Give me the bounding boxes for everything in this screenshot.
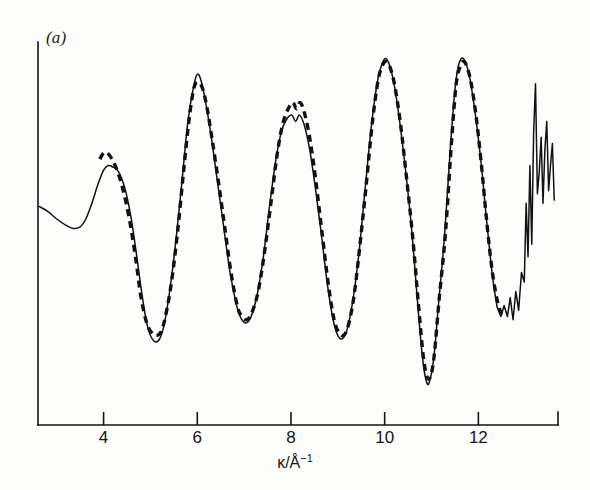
x-axis-title-exponent: −1 — [300, 452, 313, 464]
x-axis-ticks — [104, 412, 479, 425]
plot-canvas — [0, 0, 590, 490]
x-tick-label: 10 — [375, 428, 394, 448]
calculated-curve-dashed — [100, 61, 504, 379]
x-tick-label: 8 — [286, 428, 295, 448]
exafs-figure: (a) 4681012 κ/Å−1 — [0, 0, 590, 490]
x-tick-label: 4 — [99, 428, 108, 448]
x-axis-title-symbol: κ — [277, 454, 285, 471]
data-curves — [39, 58, 554, 385]
x-axis-title-unit: /Å — [285, 454, 300, 471]
x-tick-label: 12 — [469, 428, 488, 448]
x-axis-title: κ/Å−1 — [277, 452, 313, 472]
panel-label: (a) — [46, 28, 66, 48]
axes — [38, 42, 558, 425]
x-tick-label: 6 — [193, 428, 202, 448]
